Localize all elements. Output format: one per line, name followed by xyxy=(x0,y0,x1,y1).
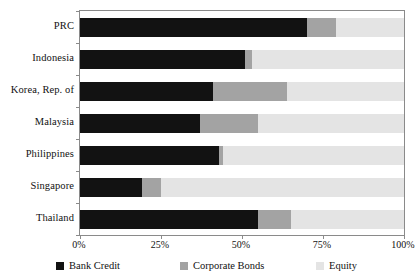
bar-row xyxy=(80,146,404,165)
bar-row xyxy=(80,82,404,101)
bar-segment-bank-credit xyxy=(80,178,142,197)
chart-legend: Bank CreditCorporate BondsEquity xyxy=(56,259,406,275)
bar-segment-equity xyxy=(291,210,404,229)
value-axis-tick-label: 75% xyxy=(313,239,331,251)
bar-segment-bank-credit xyxy=(80,114,200,133)
value-axis-tick-label: 50% xyxy=(232,239,250,251)
legend-label: Corporate Bonds xyxy=(193,259,264,273)
legend-label: Equity xyxy=(329,259,357,273)
category-label-indonesia: Indonesia xyxy=(0,52,74,64)
legend-label: Bank Credit xyxy=(69,259,120,273)
bar-row xyxy=(80,178,404,197)
legend-item-bank-credit: Bank Credit xyxy=(56,259,120,273)
category-axis-tick xyxy=(76,43,80,44)
bar-segment-bank-credit xyxy=(80,18,307,37)
bar-segment-corporate-bonds xyxy=(142,178,161,197)
category-label-thailand: Thailand xyxy=(0,212,74,224)
category-label-prc: PRC xyxy=(0,20,74,32)
bar-segment-equity xyxy=(287,82,404,101)
bar-segment-bank-credit xyxy=(80,146,219,165)
plot-area xyxy=(79,10,405,236)
bar-segment-corporate-bonds xyxy=(307,18,336,37)
legend-swatch-icon xyxy=(56,262,64,270)
bar-segment-corporate-bonds xyxy=(200,114,258,133)
legend-swatch-icon xyxy=(180,262,188,270)
value-axis-tick-label: 0% xyxy=(72,239,85,251)
bar-row xyxy=(80,210,404,229)
category-axis-tick xyxy=(76,107,80,108)
category-label-philippines: Philippines xyxy=(0,148,74,160)
bar-row xyxy=(80,114,404,133)
category-axis-tick xyxy=(76,11,80,12)
bar-segment-equity xyxy=(252,50,404,69)
bar-segment-corporate-bonds xyxy=(213,82,288,101)
bar-segment-equity xyxy=(336,18,404,37)
category-label-malaysia: Malaysia xyxy=(0,116,74,128)
category-axis-tick xyxy=(76,139,80,140)
value-axis-labels: 0%25%50%75%100% xyxy=(79,239,403,253)
bar-segment-corporate-bonds xyxy=(258,210,290,229)
bar-segment-bank-credit xyxy=(80,50,245,69)
category-label-korea-rep-of: Korea, Rep. of xyxy=(0,84,74,96)
bar-segment-bank-credit xyxy=(80,210,258,229)
legend-swatch-icon xyxy=(316,262,324,270)
value-axis-tick-label: 25% xyxy=(151,239,169,251)
bar-segment-equity xyxy=(223,146,404,165)
bar-segment-bank-credit xyxy=(80,82,213,101)
category-axis-tick xyxy=(76,171,80,172)
bar-segment-equity xyxy=(258,114,404,133)
bar-row xyxy=(80,50,404,69)
stacked-bar-chart: PRCIndonesiaKorea, Rep. ofMalaysiaPhilip… xyxy=(0,0,419,280)
category-axis-tick xyxy=(76,75,80,76)
category-axis-tick xyxy=(76,203,80,204)
legend-item-corporate-bonds: Corporate Bonds xyxy=(180,259,264,273)
category-axis-labels: PRCIndonesiaKorea, Rep. ofMalaysiaPhilip… xyxy=(0,10,74,234)
legend-item-equity: Equity xyxy=(316,259,357,273)
bar-row xyxy=(80,18,404,37)
category-label-singapore: Singapore xyxy=(0,180,74,192)
value-axis-tick-label: 100% xyxy=(391,239,414,251)
bar-segment-equity xyxy=(161,178,404,197)
